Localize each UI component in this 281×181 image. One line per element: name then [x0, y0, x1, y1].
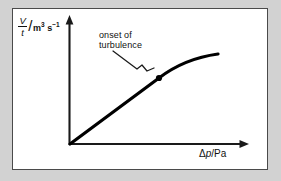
y-axis-units: m3 s−1: [33, 21, 60, 33]
y-axis-solidus: /: [28, 17, 32, 34]
y-axis-arrowhead: [66, 15, 74, 25]
y-axis-fraction: V t: [18, 16, 27, 37]
annotation-text: onset of turbulence: [99, 30, 142, 51]
annotation-line-1: onset of: [99, 30, 142, 40]
y-axis-denominator: t: [20, 27, 26, 37]
x-axis-delta-symbol: Δ: [199, 148, 206, 159]
y-axis-unit-metre: m: [33, 23, 41, 33]
y-axis-unit-second-exponent: −1: [52, 21, 59, 28]
figure-container: V t / m3 s−1 Δp/Pa onset of turbulence: [0, 0, 281, 181]
annotation-line-2: turbulence: [99, 40, 142, 50]
y-axis-label: V t / m3 s−1: [18, 16, 60, 37]
y-axis-unit-metre-exponent: 3: [41, 21, 45, 28]
x-axis-arrowhead: [240, 140, 250, 148]
y-axis-numerator: V: [18, 16, 27, 27]
x-axis-label: Δp/Pa: [199, 148, 226, 160]
onset-of-turbulence-marker: [156, 75, 162, 81]
annotation-leader-line: [113, 51, 154, 71]
x-axis-unit: Pa: [214, 148, 226, 159]
